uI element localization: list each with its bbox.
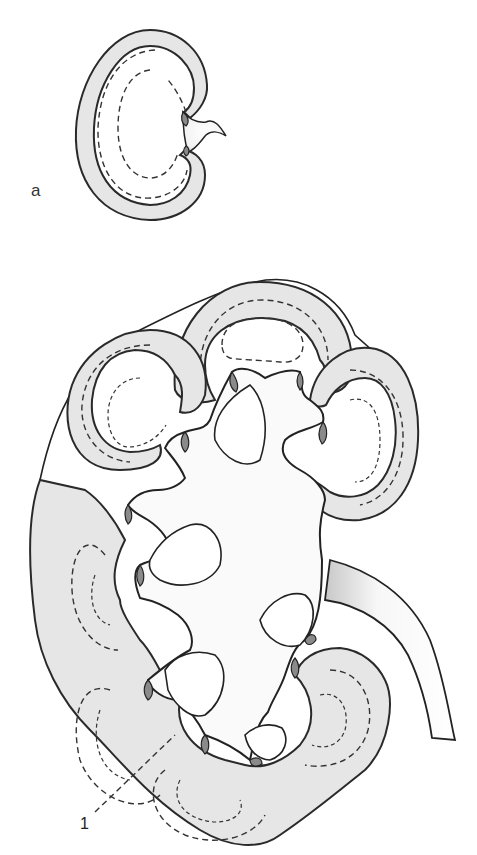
large-kidney (30, 280, 455, 845)
kidney-illustration (0, 0, 477, 855)
small-kidney (76, 30, 226, 220)
panel-label-a: a (31, 181, 40, 201)
callout-label-1: 1 (80, 815, 89, 833)
